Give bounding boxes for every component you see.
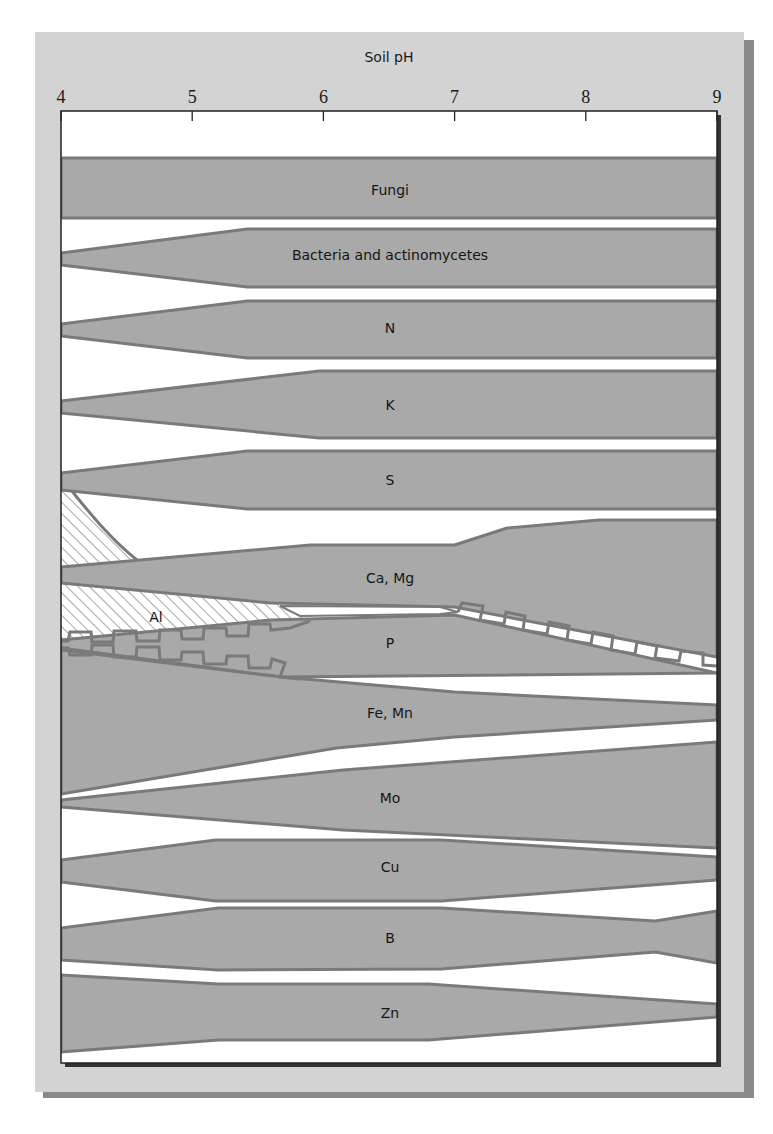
band-label: S <box>386 472 395 488</box>
x-axis-title: Soil pH <box>364 49 413 65</box>
x-tick-label: 8 <box>581 87 590 107</box>
soil-ph-availability-chart: Soil pH 456789 FungiBacteria and actinom… <box>0 0 773 1134</box>
x-tick-label: 9 <box>713 87 722 107</box>
band-label: B <box>385 930 395 946</box>
band-label: Bacteria and actinomycetes <box>292 247 488 263</box>
band-label: Fe, Mn <box>367 705 413 721</box>
band-label: Fungi <box>371 182 409 198</box>
x-tick-label: 7 <box>450 87 459 107</box>
x-tick-label: 6 <box>319 87 328 107</box>
band-label: Cu <box>381 859 400 875</box>
band-label: Ca, Mg <box>366 570 414 586</box>
x-tick-label: 5 <box>188 87 197 107</box>
ca-p-gap <box>280 606 458 616</box>
x-tick-label: 4 <box>57 87 66 107</box>
band-label: P <box>386 635 394 651</box>
band-label: K <box>385 397 395 413</box>
band-label: Zn <box>381 1005 399 1021</box>
band-label: N <box>385 320 395 336</box>
al-label: Al <box>149 609 162 625</box>
band-label: Mo <box>380 790 401 806</box>
